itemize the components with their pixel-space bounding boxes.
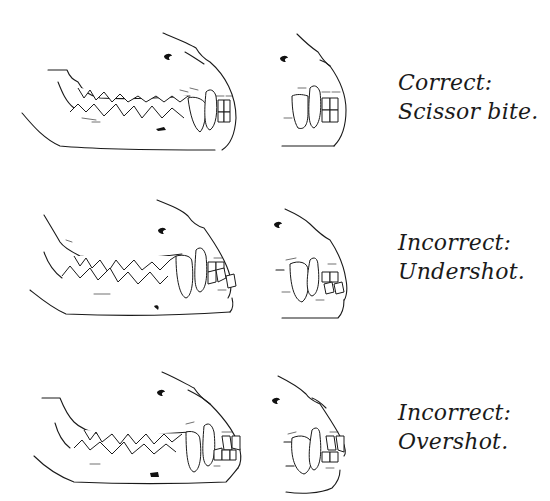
row-overshot: Incorrect: Overshot. <box>0 360 550 501</box>
row-undershot: Incorrect: Undershot. <box>0 180 550 330</box>
caption-status: Correct: <box>398 68 538 97</box>
undershot-illustration <box>0 180 370 330</box>
caption-bite-type: Scissor bite. <box>398 97 538 126</box>
caption-scissor-bite: Correct: Scissor bite. <box>398 68 538 126</box>
caption-overshot: Incorrect: Overshot. <box>398 398 511 456</box>
caption-undershot: Incorrect: Undershot. <box>398 228 525 286</box>
overshot-front-view <box>272 376 345 493</box>
undershot-side-view <box>30 200 236 315</box>
undershot-front-view <box>274 209 347 318</box>
scissor-bite-illustration <box>0 0 370 165</box>
caption-bite-type: Overshot. <box>398 427 511 456</box>
caption-status: Incorrect: <box>398 398 511 427</box>
row-scissor-bite: Correct: Scissor bite. <box>0 0 550 165</box>
caption-bite-type: Undershot. <box>398 257 525 286</box>
scissor-side-view <box>22 33 236 150</box>
overshot-illustration <box>0 360 370 501</box>
scissor-front-view <box>280 34 346 146</box>
caption-status: Incorrect: <box>398 228 525 257</box>
overshot-side-view <box>34 372 241 484</box>
